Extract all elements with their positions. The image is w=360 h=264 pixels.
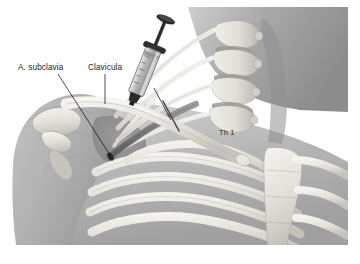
illustration-figure: A. subclavia Clavicula Th 1 [0,0,360,264]
anatomy-illustration-canvas: A. subclavia Clavicula Th 1 [0,0,360,264]
label-th-1: Th 1 [219,128,235,137]
label-clavicula: Clavicula [88,63,122,72]
vertebral-column [210,18,287,144]
label-a-subclavia: A. subclavia [18,63,64,72]
